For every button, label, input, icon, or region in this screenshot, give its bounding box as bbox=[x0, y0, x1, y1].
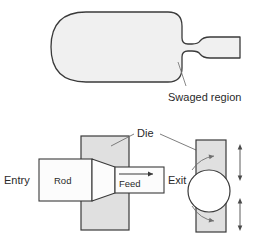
swaging-diagram-svg: Swaged region Entry Rod Feed Exit D bbox=[0, 0, 260, 241]
exit-label: Exit bbox=[168, 174, 186, 186]
swaged-region-label: Swaged region bbox=[168, 91, 241, 103]
workpiece-outline bbox=[51, 12, 240, 82]
rod-label: Rod bbox=[54, 175, 71, 186]
rod-taper-section bbox=[92, 159, 115, 201]
die-label: Die bbox=[137, 127, 154, 139]
die-leader-line-right bbox=[160, 134, 196, 150]
upper-stroke-arrow bbox=[238, 144, 243, 181]
entry-label: Entry bbox=[4, 174, 30, 186]
lower-stroke-arrow bbox=[238, 198, 243, 231]
upper-workpiece-view: Swaged region bbox=[51, 12, 241, 103]
feed-label: Feed bbox=[119, 178, 141, 189]
lower-die-rod-view: Entry Rod Feed Exit Die bbox=[4, 127, 196, 230]
rotary-die-view bbox=[188, 140, 242, 232]
swaging-figure: Swaged region Entry Rod Feed Exit D bbox=[0, 0, 260, 241]
rod-cross-section bbox=[188, 170, 230, 212]
